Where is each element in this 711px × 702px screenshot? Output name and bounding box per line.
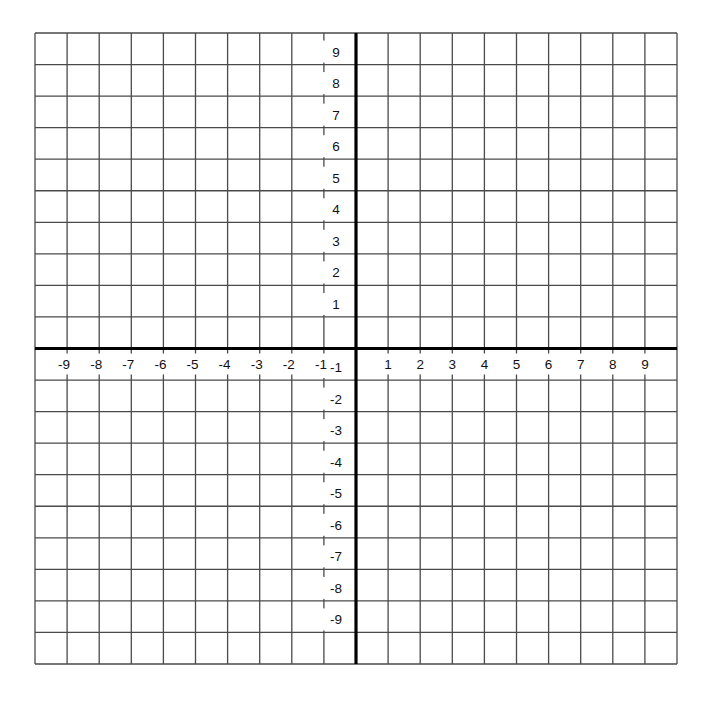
x-tick-label: -5 <box>186 357 198 372</box>
x-tick-label: -6 <box>154 357 166 372</box>
x-tick-label: 1 <box>384 357 392 372</box>
y-tick-label: 2 <box>332 265 340 280</box>
y-tick-label: -1 <box>330 360 342 375</box>
y-tick-label: -9 <box>330 612 342 627</box>
y-tick-label: -2 <box>330 392 342 407</box>
x-tick-label: 2 <box>416 357 424 372</box>
x-tick-label: -9 <box>58 357 70 372</box>
x-tick-label: -2 <box>283 357 295 372</box>
x-tick-label: 8 <box>609 357 617 372</box>
y-tick-label: 8 <box>332 76 340 91</box>
x-tick-label: 9 <box>641 357 649 372</box>
x-tick-label: -1 <box>315 357 327 372</box>
y-tick-label: 7 <box>332 108 340 123</box>
y-tick-label: -7 <box>330 549 342 564</box>
x-tick-label: -4 <box>219 357 231 372</box>
y-tick-label: 6 <box>332 139 340 154</box>
x-axis-tick-labels: -9-8-7-6-5-4-3-2-1123456789 <box>58 357 649 372</box>
x-tick-label: -8 <box>90 357 102 372</box>
x-tick-label: 7 <box>577 357 585 372</box>
coordinate-plane: -9-8-7-6-5-4-3-2-1123456789 987654321-1-… <box>0 0 711 702</box>
y-tick-label: -3 <box>330 423 342 438</box>
x-tick-label: -7 <box>122 357 134 372</box>
y-tick-label: 3 <box>332 234 340 249</box>
x-tick-label: 6 <box>545 357 553 372</box>
y-tick-label: 9 <box>332 45 340 60</box>
y-tick-label: -4 <box>330 455 342 470</box>
y-tick-label: 5 <box>332 171 340 186</box>
x-tick-label: 5 <box>513 357 521 372</box>
x-tick-label: -3 <box>251 357 263 372</box>
y-tick-label: -8 <box>330 581 342 596</box>
y-axis-tick-labels: 987654321-1-2-3-4-5-6-7-8-9 <box>330 45 342 628</box>
x-tick-label: 3 <box>449 357 457 372</box>
y-tick-label: -6 <box>330 518 342 533</box>
y-tick-label: 4 <box>332 202 340 217</box>
y-tick-label: 1 <box>332 297 340 312</box>
x-tick-label: 4 <box>481 357 489 372</box>
y-tick-label: -5 <box>330 486 342 501</box>
